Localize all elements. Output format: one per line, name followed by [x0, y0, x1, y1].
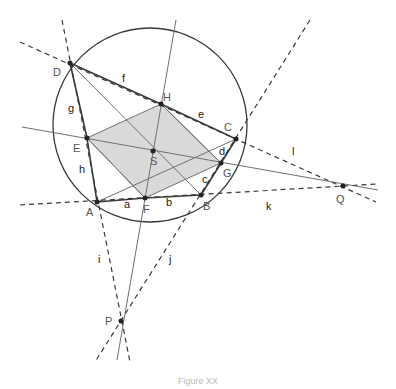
- point-B[interactable]: [199, 193, 204, 198]
- label-g: g: [68, 102, 74, 114]
- construction-lines: [22, 20, 378, 360]
- label-c: c: [202, 173, 208, 185]
- label-k: k: [266, 200, 272, 212]
- point-S[interactable]: [151, 149, 156, 154]
- label-f: f: [122, 72, 126, 84]
- point-P[interactable]: [119, 319, 124, 324]
- label-D: D: [53, 66, 61, 78]
- figure-caption: Figure XX: [0, 376, 396, 386]
- point-F[interactable]: [143, 196, 148, 201]
- label-E: E: [73, 142, 80, 154]
- label-B: B: [203, 200, 210, 212]
- dashed-extensions: [20, 20, 378, 362]
- point-D[interactable]: [68, 61, 73, 66]
- label-Q: Q: [336, 193, 345, 205]
- point-E[interactable]: [85, 136, 90, 141]
- label-C: C: [224, 121, 232, 133]
- points: [68, 61, 346, 324]
- label-F: F: [143, 203, 150, 215]
- label-S: S: [150, 155, 157, 167]
- label-A: A: [86, 206, 94, 218]
- label-b: b: [166, 196, 172, 208]
- label-d: d: [219, 145, 225, 157]
- label-G: G: [223, 167, 232, 179]
- line-QGE: [22, 127, 378, 190]
- label-e: e: [198, 108, 204, 120]
- label-i: i: [98, 253, 100, 265]
- point-Q[interactable]: [341, 184, 346, 189]
- side-h-EA: [87, 138, 97, 202]
- label-l: l: [292, 145, 294, 157]
- point-G[interactable]: [219, 161, 224, 166]
- label-P: P: [105, 315, 112, 327]
- point-A[interactable]: [95, 200, 100, 205]
- point-C[interactable]: [234, 137, 239, 142]
- label-h: h: [79, 163, 85, 175]
- line-j-CBP: [95, 20, 310, 362]
- label-H: H: [163, 91, 171, 103]
- label-a: a: [124, 198, 131, 210]
- line-PHF: [117, 20, 176, 360]
- side-f-HD: [70, 63, 161, 104]
- label-j: j: [168, 253, 171, 265]
